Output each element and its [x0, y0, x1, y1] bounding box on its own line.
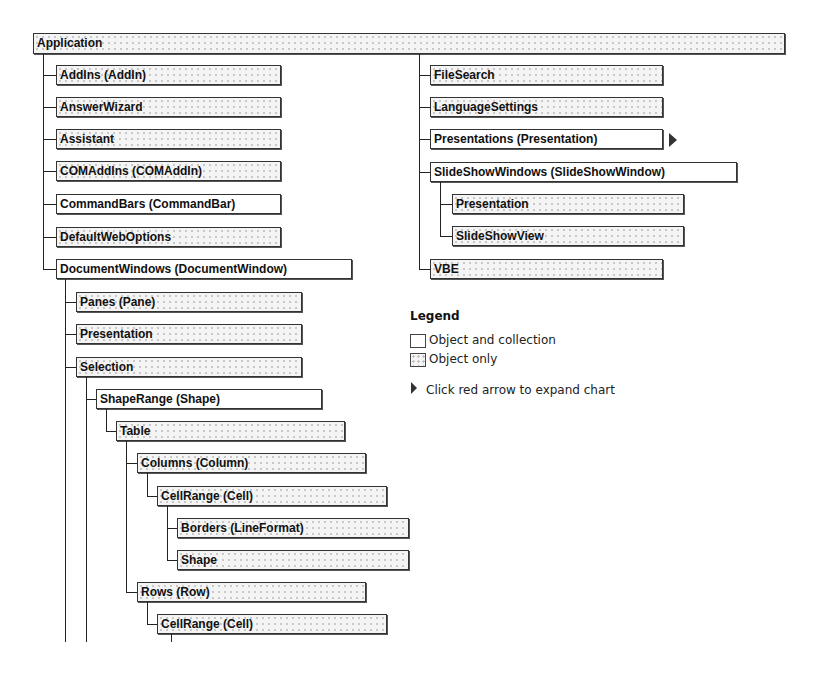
connector-line: [419, 269, 430, 270]
connector-line: [43, 237, 56, 238]
connector-line: [167, 528, 177, 529]
connector-line: [86, 399, 96, 400]
connector-line: [43, 139, 56, 140]
pattern-swatch-icon: [410, 353, 426, 367]
node-languagesettings[interactable]: LanguageSettings: [430, 97, 663, 117]
node-vbe[interactable]: VBE: [430, 259, 663, 279]
triangle-right-icon[interactable]: [669, 133, 677, 147]
connector-line: [419, 54, 420, 270]
connector-line: [65, 367, 76, 368]
node-ssw-presentation[interactable]: Presentation: [452, 194, 684, 214]
connector-line: [440, 204, 452, 205]
connector-line: [171, 634, 172, 642]
connector-line: [147, 624, 157, 625]
connector-line: [147, 473, 148, 496]
connector-line: [419, 75, 430, 76]
connector-line: [419, 139, 430, 140]
connector-line: [106, 409, 107, 431]
node-columns[interactable]: Columns (Column): [137, 453, 366, 473]
connector-line: [126, 463, 137, 464]
connector-line: [43, 75, 56, 76]
connector-line: [147, 602, 148, 624]
node-documentwindows[interactable]: DocumentWindows (DocumentWindow): [56, 259, 352, 279]
node-panes[interactable]: Panes (Pane): [76, 292, 302, 312]
node-cellrange[interactable]: CellRange (Cell): [157, 486, 387, 506]
node-presentation[interactable]: Presentation: [76, 324, 302, 344]
legend-label: Object and collection: [429, 333, 556, 347]
node-commandbars[interactable]: CommandBars (CommandBar): [56, 194, 281, 214]
connector-line: [167, 560, 177, 561]
connector-line: [147, 496, 157, 497]
node-selection[interactable]: Selection: [76, 357, 302, 377]
connector-line: [43, 171, 56, 172]
connector-line: [440, 236, 452, 237]
node-comaddins[interactable]: COMAddIns (COMAddIn): [56, 161, 281, 181]
connector-line: [419, 172, 430, 173]
connector-line: [43, 204, 56, 205]
node-addins[interactable]: AddIns (AddIn): [56, 65, 281, 85]
node-presentations[interactable]: Presentations (Presentation): [430, 129, 663, 149]
node-application[interactable]: Application: [33, 33, 785, 54]
node-slideshowwindows[interactable]: SlideShowWindows (SlideShowWindow): [430, 162, 737, 182]
connector-line: [43, 107, 56, 108]
connector-line: [126, 592, 137, 593]
node-rows[interactable]: Rows (Row): [137, 582, 366, 602]
node-shaperange[interactable]: ShapeRange (Shape): [96, 389, 322, 409]
node-cellrange-rows[interactable]: CellRange (Cell): [157, 614, 387, 634]
connector-line: [167, 506, 168, 560]
legend-title: Legend: [410, 309, 460, 323]
node-borders[interactable]: Borders (LineFormat): [177, 518, 409, 538]
connector-line: [65, 302, 76, 303]
node-defaultweboptions[interactable]: DefaultWebOptions: [56, 227, 281, 247]
connector-line: [65, 334, 76, 335]
node-table[interactable]: Table: [116, 421, 345, 441]
connector-line: [43, 269, 56, 270]
node-slideshowview[interactable]: SlideShowView: [452, 226, 684, 246]
white-swatch-icon: [410, 334, 426, 348]
legend-label: Click red arrow to expand chart: [426, 383, 615, 397]
connector-line: [419, 107, 430, 108]
connector-line: [440, 182, 441, 236]
triangle-right-icon: [411, 382, 417, 394]
node-shape[interactable]: Shape: [177, 550, 409, 570]
node-answerwizard[interactable]: AnswerWizard: [56, 97, 281, 117]
connector-line: [106, 431, 116, 432]
connector-line: [86, 377, 87, 642]
node-filesearch[interactable]: FileSearch: [430, 65, 663, 85]
legend-label: Object only: [429, 352, 497, 366]
node-assistant[interactable]: Assistant: [56, 129, 281, 149]
